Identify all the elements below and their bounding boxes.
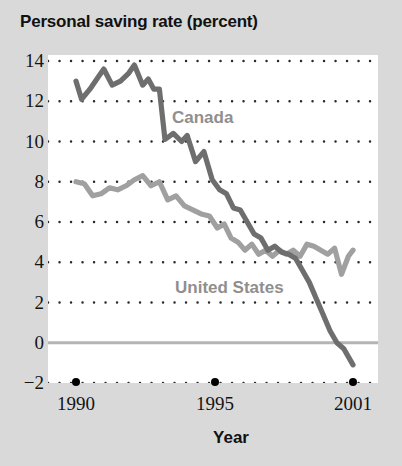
series-label-canada: Canada bbox=[172, 108, 233, 128]
y-tick-label: 4 bbox=[4, 252, 44, 271]
y-tick-label: 14 bbox=[4, 51, 44, 70]
x-tick-label: 2001 bbox=[313, 394, 393, 413]
plot-area bbox=[48, 55, 378, 383]
y-tick-label: 2 bbox=[4, 293, 44, 312]
y-tick-label: 0 bbox=[4, 333, 44, 352]
x-tick-label: 1995 bbox=[175, 394, 255, 413]
x-tick-label: 1990 bbox=[36, 394, 116, 413]
series-label-united-states: United States bbox=[175, 278, 284, 298]
x-tick-marker bbox=[349, 378, 357, 386]
page-title: Personal saving rate (percent) bbox=[20, 12, 258, 32]
chart-screenshot: Personal saving rate (percent) 141210864… bbox=[0, 0, 402, 466]
y-tick-label: 8 bbox=[4, 172, 44, 191]
y-tick-label: 12 bbox=[4, 91, 44, 110]
y-tick-label: 10 bbox=[4, 132, 44, 151]
x-tick-marker bbox=[72, 378, 80, 386]
x-tick-marker bbox=[211, 378, 219, 386]
y-tick-label: 6 bbox=[4, 212, 44, 231]
plot-svg bbox=[48, 55, 378, 383]
x-axis-title: Year bbox=[0, 428, 402, 448]
series-line-united-states bbox=[76, 176, 353, 275]
y-tick-label: −2 bbox=[4, 373, 44, 392]
